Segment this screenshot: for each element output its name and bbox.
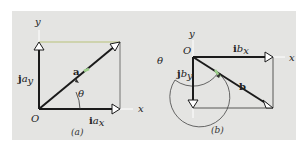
vector-diagram: y x O a θ iax jay (a) y x [0,0,307,152]
caption-a: (a) [71,127,84,137]
y-axis-label-b: y [188,28,195,39]
caption-b: (b) [211,125,224,135]
angle-arc-b [170,73,230,127]
vector-a [39,46,115,109]
vector-label-a: a [73,66,80,77]
vector-label-b: b [239,81,246,92]
angle-label-a: θ [78,88,84,99]
arrowhead-down-icon [188,100,198,108]
panel-a: y x O a θ iax jay (a) [17,16,144,137]
x-component-label-b: ibx [233,43,249,56]
x-component-label-a: iax [89,115,105,128]
arrowhead-up-icon [34,42,44,50]
arrowhead-diagonal-icon [263,100,273,108]
x-axis-label-a: x [138,103,144,114]
y-component-label-b: jby [176,68,193,81]
y-axis-label-a: y [34,16,41,27]
origin-label-b: O [183,45,191,56]
origin-label-a: O [31,113,39,124]
arrowhead-right-icon [112,104,120,114]
arrowhead-right-icon [265,52,273,62]
highlight-mark [84,69,89,71]
angle-label-b: θ [157,55,163,66]
panel-b: y x O b θ ibx jby (b) [157,28,295,135]
y-component-label-a: jay [17,73,34,86]
x-axis-label-b: x [289,52,295,63]
